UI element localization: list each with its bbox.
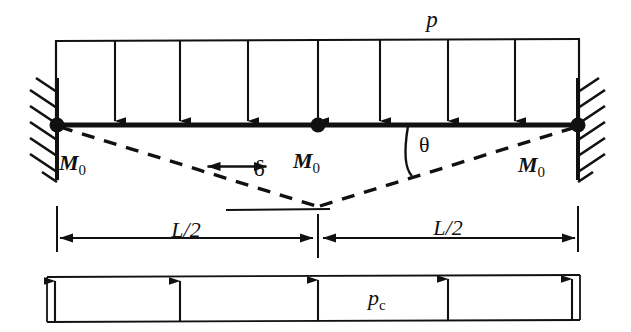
collapse-load-bottom-line	[47, 320, 580, 322]
label-collapse-load-subscript: c	[379, 297, 386, 313]
vertex-reference-line	[226, 209, 330, 210]
rotation-angle-indicator	[405, 126, 412, 176]
beam-diagram-svg: p M0 M0 M0 δ θ L/2 L/2 pc	[0, 0, 631, 332]
label-moment-right-subscript: 0	[538, 164, 545, 180]
theta-arc	[405, 126, 412, 176]
load-arrows	[115, 40, 515, 122]
label-moment-center: M0	[292, 148, 320, 176]
plastic-hinge-left	[50, 118, 65, 133]
label-moment-left-symbol: M	[58, 150, 80, 175]
plastic-hinge-center	[311, 118, 326, 133]
label-moment-center-subscript: 0	[313, 160, 320, 176]
beam-collapse-figure: p M0 M0 M0 δ θ L/2 L/2 pc	[0, 0, 631, 332]
label-moment-left-subscript: 0	[79, 162, 86, 178]
mechanism-segment-left	[60, 127, 316, 206]
collapse-load-diagram	[47, 275, 580, 322]
label-collapse-load: pc	[366, 285, 386, 313]
span-dimension-row	[57, 206, 578, 258]
label-collapse-load-symbol: p	[366, 285, 379, 310]
plastic-hinge-right	[571, 118, 586, 133]
label-span-left: L/2	[170, 217, 200, 242]
collapse-load-arrows	[55, 279, 572, 321]
label-moment-right-symbol: M	[517, 152, 539, 177]
label-span-right: L/2	[432, 215, 462, 240]
label-deflection: δ	[254, 156, 265, 181]
label-rotation: θ	[419, 132, 430, 157]
collapse-load-top-line	[47, 275, 580, 277]
label-moment-left: M0	[58, 150, 86, 178]
label-moment-right: M0	[517, 152, 545, 180]
label-distributed-load: p	[424, 7, 438, 32]
label-moment-center-symbol: M	[292, 148, 314, 173]
